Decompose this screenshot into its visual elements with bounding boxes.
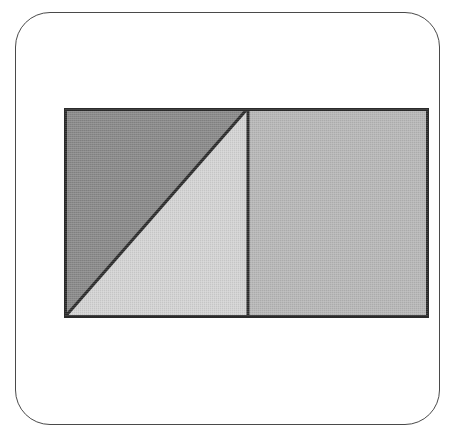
figure-canvas bbox=[0, 0, 460, 439]
geometry-figure bbox=[64, 108, 429, 318]
rounded-rectangle-card bbox=[15, 12, 440, 425]
halftone-texture-overlay bbox=[64, 108, 429, 318]
halftone-texture-clip bbox=[64, 108, 429, 318]
